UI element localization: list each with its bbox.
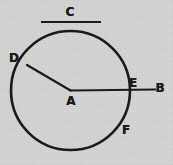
point-label-e: E [129, 77, 137, 89]
geometry-figure: C D A E B F [0, 0, 173, 165]
point-label-c: C [66, 6, 75, 18]
point-label-d: D [9, 52, 19, 64]
figure-canvas [0, 0, 173, 165]
ray-line-AB [71, 90, 157, 91]
radius-line-AD [27, 65, 71, 91]
point-label-a: A [66, 95, 75, 107]
point-label-f: F [122, 124, 130, 136]
point-label-b: B [155, 82, 164, 94]
